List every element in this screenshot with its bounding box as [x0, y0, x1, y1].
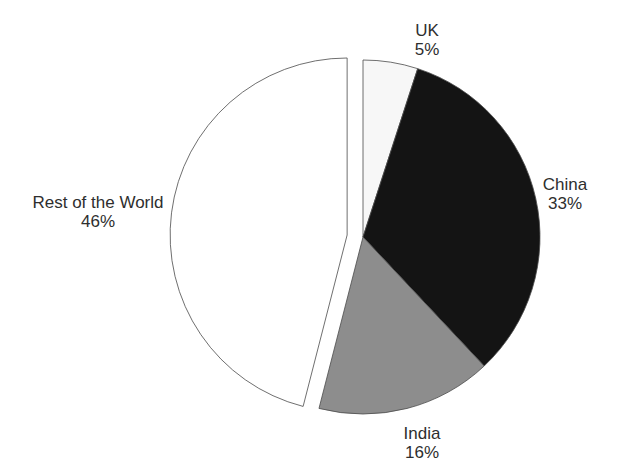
slice-label-name: Rest of the World: [32, 193, 163, 212]
slice-label-name: China: [543, 175, 587, 194]
slice-label-india: India 16%: [404, 424, 441, 462]
slice-label-percent: 5%: [415, 40, 440, 59]
slice-label-uk: UK 5%: [415, 21, 440, 59]
slice-label-name: UK: [415, 21, 440, 40]
pie-chart: [0, 0, 617, 476]
slice-label-china: China 33%: [543, 175, 587, 213]
slice-label-name: India: [404, 424, 441, 443]
pie-chart-figure: UK 5% China 33% India 16% Rest of the Wo…: [0, 0, 617, 476]
slice-label-percent: 16%: [404, 443, 441, 462]
slice-label-percent: 46%: [32, 212, 163, 231]
pie-slice-rest-of-the-world: [170, 58, 347, 406]
slice-label-percent: 33%: [543, 194, 587, 213]
slice-label-rest-of-the-world: Rest of the World 46%: [32, 193, 163, 231]
